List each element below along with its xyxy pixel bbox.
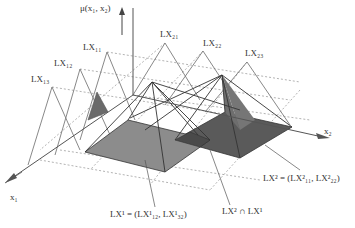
callout-lx2: LX² = (LX²₁₁, LX²₂₂) (263, 174, 340, 183)
label-lx12: LX₁₂ (54, 59, 72, 68)
label-lx23: LX₂₃ (245, 49, 263, 58)
label-lx13: LX₁₃ (31, 75, 49, 84)
fuzzy-membership-diagram: μ(x₁, x₂) x₂ x₁ LX₁₁ LX₁₂ LX₁₃ LX₂₁ LX₂₂… (0, 0, 355, 228)
label-lx21: LX₂₁ (160, 30, 178, 39)
callout-intersection: LX² ∩ LX¹ (222, 207, 262, 216)
callout-lx1: LX¹ = (LX¹₁₂, LX¹₃₂) (110, 210, 187, 219)
ground-grid (40, 43, 310, 190)
x1-axis-label: x₁ (10, 193, 18, 202)
mu-arrowhead (119, 7, 125, 15)
label-lx22: LX₂₂ (203, 39, 221, 48)
label-lx11: LX₁₁ (83, 43, 101, 52)
mu-axis-label: μ(x₁, x₂) (80, 4, 111, 13)
x2-axis-label: x₂ (324, 127, 332, 136)
